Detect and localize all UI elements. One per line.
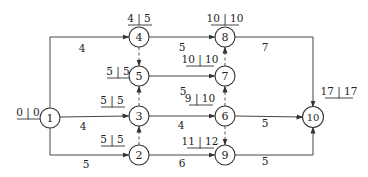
- duration-3-6: 4: [178, 119, 185, 131]
- times-node-2: 5 | 5: [100, 133, 125, 147]
- duration-4-8: 5: [179, 41, 186, 53]
- times-4: 4 | 5: [127, 12, 151, 26]
- times-1: 0 | 0: [16, 106, 40, 120]
- times-node-3: 5 | 5: [100, 94, 125, 108]
- duration-2-9: 6: [179, 157, 186, 169]
- time-labels: 0 | 0 4 | 5 5 | 5 5 | 5 5 | 5 10 | 10 10…: [16, 12, 357, 149]
- node-1: 1: [40, 108, 60, 128]
- duration-1-2: 5: [83, 158, 90, 170]
- edge-6-10: [235, 116, 303, 117]
- times-6: 9 | 10: [185, 92, 215, 106]
- svg-text:4: 4: [136, 31, 143, 44]
- times-node-9: 11 | 12: [182, 135, 219, 149]
- node-7: 7: [215, 66, 235, 86]
- duration-8-10: 7: [262, 41, 269, 53]
- node-9: 9: [215, 145, 235, 165]
- duration-6-10: 5: [262, 117, 269, 129]
- node-8: 8: [215, 27, 235, 47]
- times-node-5: 5 | 5: [106, 65, 131, 79]
- times-node-10: 17 | 17: [321, 85, 358, 99]
- edge-9-10: [235, 127, 313, 155]
- times-node-6: 9 | 10: [185, 92, 215, 106]
- svg-text:2: 2: [136, 149, 143, 162]
- node-2: 2: [129, 145, 149, 165]
- times-node-1: 0 | 0: [16, 106, 40, 120]
- svg-text:9: 9: [222, 149, 229, 162]
- times-2: 5 | 5: [100, 133, 124, 147]
- edge-8-10: [235, 37, 313, 107]
- node-6: 6: [215, 106, 235, 126]
- svg-text:3: 3: [136, 110, 143, 123]
- node-5: 5: [129, 66, 149, 86]
- duration-1-4: 4: [79, 42, 86, 54]
- times-node-4: 4 | 5: [127, 12, 152, 26]
- svg-text:5: 5: [136, 70, 143, 83]
- node-4: 4: [129, 27, 149, 47]
- times-3: 5 | 5: [100, 94, 124, 108]
- node-3: 3: [129, 106, 149, 126]
- times-5: 5 | 5: [106, 65, 130, 79]
- svg-text:1: 1: [47, 112, 54, 125]
- svg-text:7: 7: [222, 70, 229, 83]
- times-node-7: 10 | 10: [182, 53, 219, 67]
- svg-text:6: 6: [222, 110, 229, 123]
- duration-9-10: 5: [262, 155, 269, 167]
- duration-1-3: 4: [80, 120, 87, 132]
- times-9: 11 | 12: [182, 135, 219, 149]
- svg-text:10: 10: [307, 112, 320, 123]
- times-8: 10 | 10: [207, 12, 244, 26]
- svg-text:8: 8: [222, 31, 229, 44]
- network-diagram: 4 4 5 5 5 4 6 7 5 5 0 | 0 4 | 5 5 | 5 5 …: [0, 0, 368, 177]
- times-7: 10 | 10: [182, 53, 219, 67]
- edge-1-3: [60, 116, 129, 117]
- times-10: 17 | 17: [321, 85, 358, 99]
- node-10: 10: [303, 107, 324, 128]
- times-node-8: 10 | 10: [207, 12, 244, 26]
